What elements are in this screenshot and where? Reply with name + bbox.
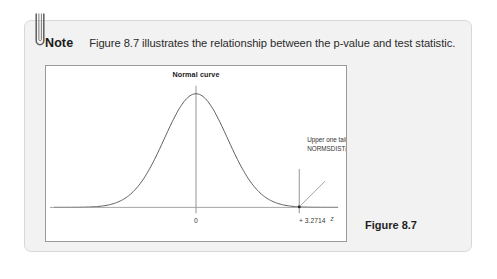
annotation-line-2: NORMSDIST(3.2714) xyxy=(307,145,346,153)
figure-caption: Figure 8.7 xyxy=(365,219,417,231)
note-callout-box: Note Figure 8.7 illustrates the relation… xyxy=(24,20,472,252)
curve-point-marker xyxy=(298,206,301,209)
paperclip-icon xyxy=(32,12,48,50)
x-tick-label-statistic: + 3.2714 xyxy=(299,217,326,224)
x-axis-label: z xyxy=(330,215,335,222)
note-header: Note Figure 8.7 illustrates the relation… xyxy=(45,36,459,50)
note-label: Note xyxy=(45,36,73,50)
x-tick-label-0: 0 xyxy=(194,217,198,224)
chart-plot-area: Upper one tail p = 1- NORMSDIST(3.2714) … xyxy=(46,66,346,241)
note-body-text: Figure 8.7 illustrates the relationship … xyxy=(89,37,455,49)
annotation-leader-line xyxy=(301,181,325,205)
annotation-line-1: Upper one tail p = 1- xyxy=(307,136,346,144)
normal-curve-chart: Normal curve Upper one tail p = 1- NORMS… xyxy=(45,65,347,242)
